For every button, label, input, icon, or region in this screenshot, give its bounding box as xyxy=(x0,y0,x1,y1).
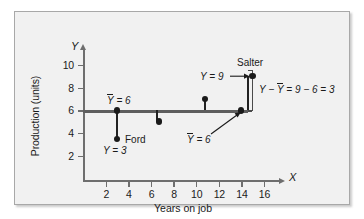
y-ticklabel-6: 6 xyxy=(52,104,74,116)
annotation-salter-value: Y = 9 xyxy=(200,71,223,82)
figure-root: Y X 10 8 6 4 2 2 4 6 8 10 xyxy=(0,0,364,219)
data-point-salter xyxy=(249,73,255,79)
y-axis-arrow-icon xyxy=(80,44,86,50)
ford-value-suffix: = 3 xyxy=(110,145,127,156)
x-tick-8 xyxy=(173,182,174,187)
deviation-stem-salter xyxy=(247,76,249,110)
annotation-salter-name: Salter xyxy=(237,57,263,68)
deviation-bracket-tip-top xyxy=(248,70,252,71)
y-tick-2 xyxy=(78,156,84,157)
y-ticklabel-4: 4 xyxy=(52,127,74,139)
x-tick-2 xyxy=(106,182,107,187)
x-axis-line xyxy=(83,180,281,182)
data-point xyxy=(114,107,120,113)
y-ticklabel-8: 8 xyxy=(52,82,74,94)
annotation-ford-value: Y = 3 xyxy=(103,145,126,156)
mean-overline-var-top: Y xyxy=(107,95,114,106)
salter-value-suffix: = 9 xyxy=(207,71,224,82)
x-ticklabel-16: 16 xyxy=(254,188,276,200)
annotation-mean-bottom: Y = 6 xyxy=(187,134,211,145)
annotation-mean-top: Y = 6 xyxy=(107,95,131,106)
deviation-suffix: = 9 − 6 = 3 xyxy=(284,84,335,95)
mean-suffix-bottom: = 6 xyxy=(194,134,211,145)
x-ticklabel-2: 2 xyxy=(95,188,117,200)
deviation-prefix: Y − xyxy=(259,84,277,95)
data-point xyxy=(238,107,244,113)
data-point xyxy=(202,96,208,102)
y-tick-8 xyxy=(78,88,84,89)
x-axis-label: Years on job xyxy=(123,202,243,214)
data-point-ford xyxy=(114,136,120,142)
y-ticklabel-10: 10 xyxy=(52,59,74,71)
x-tick-12 xyxy=(219,182,220,187)
mean-line xyxy=(83,110,248,112)
y-tick-4 xyxy=(78,133,84,134)
annotation-ford-name: Ford xyxy=(125,134,146,145)
x-ticklabel-14: 14 xyxy=(231,188,253,200)
deviation-stem-ford xyxy=(116,110,118,138)
x-tick-16 xyxy=(264,182,265,187)
plot-area: Y X 10 8 6 4 2 2 4 6 8 10 xyxy=(15,12,349,204)
mean-overline-var-bottom: Y xyxy=(187,134,194,145)
x-tick-10 xyxy=(196,182,197,187)
x-ticklabel-8: 8 xyxy=(163,188,185,200)
deviation-overline-var: Y xyxy=(277,84,284,95)
x-ticklabel-6: 6 xyxy=(141,188,163,200)
x-tick-4 xyxy=(128,182,129,187)
x-axis-arrow-icon xyxy=(279,178,285,184)
y-tick-10 xyxy=(78,65,84,66)
x-tick-6 xyxy=(151,182,152,187)
x-axis-name: X xyxy=(289,171,296,183)
y-axis-label: Production (units) xyxy=(29,56,41,176)
data-point xyxy=(156,118,162,124)
y-ticklabel-2: 2 xyxy=(52,150,74,162)
y-axis-line xyxy=(83,50,85,182)
x-ticklabel-4: 4 xyxy=(118,188,140,200)
x-ticklabel-10: 10 xyxy=(186,188,208,200)
figure-frame: Y X 10 8 6 4 2 2 4 6 8 10 xyxy=(14,11,350,205)
annotation-deviation: Y − Y = 9 − 6 = 3 xyxy=(259,84,334,95)
y-axis-name: Y xyxy=(71,40,78,52)
x-tick-14 xyxy=(241,182,242,187)
mean-suffix-top: = 6 xyxy=(114,95,131,106)
deviation-bracket-tip-bottom xyxy=(248,110,252,111)
x-ticklabel-12: 12 xyxy=(208,188,230,200)
